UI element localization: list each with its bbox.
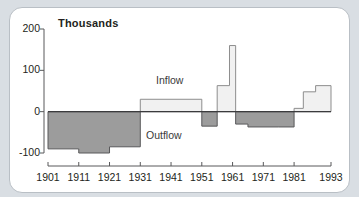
x-tick-label: 1941 — [159, 171, 182, 183]
x-tick-label: 1901 — [36, 171, 59, 183]
y-tick-label: 200 — [8, 22, 40, 34]
x-tick-label: 1911 — [67, 171, 90, 183]
x-tick-label: 1931 — [129, 171, 152, 183]
outflow-series-label: Outflow — [146, 129, 182, 141]
chart-figure: Thousands Inflow Outflow 2001000-100 190… — [0, 0, 359, 197]
x-tick-label: 1981 — [282, 171, 305, 183]
y-axis — [40, 29, 44, 153]
y-tick-label: 0 — [8, 105, 40, 117]
chart-plot-svg — [0, 0, 359, 197]
y-tick-label: -100 — [8, 146, 40, 158]
inflow-series-label: Inflow — [156, 74, 183, 86]
y-tick-label: 100 — [8, 63, 40, 75]
x-tick-label: 1971 — [252, 171, 275, 183]
x-tick-label: 1921 — [98, 171, 121, 183]
chart-title: Thousands — [58, 17, 118, 29]
x-tick-label: 1951 — [190, 171, 213, 183]
x-tick-label: 1961 — [221, 171, 244, 183]
x-tick-label: 1993 — [319, 171, 342, 183]
x-axis — [48, 162, 331, 166]
